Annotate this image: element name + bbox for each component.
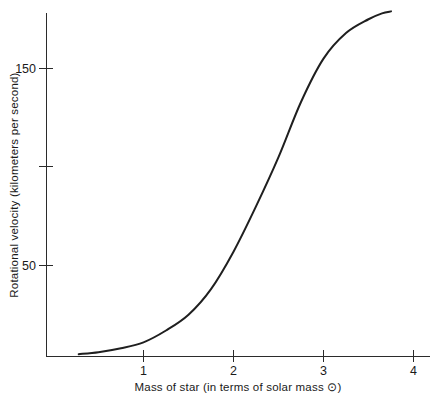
x-tick-label-2: 2: [230, 364, 237, 378]
chart-background: [0, 0, 444, 398]
x-axis-title: Mass of star (in terms of solar mass ⊙): [135, 381, 342, 393]
x-tick-label-4: 4: [410, 364, 417, 378]
x-tick-label-3: 3: [320, 364, 327, 378]
y-tick-label-50: 50: [22, 259, 36, 273]
x-tick-label-1: 1: [140, 364, 147, 378]
y-axis-title: Rotational velocity (kilometers per seco…: [8, 72, 20, 297]
chart-figure: 150 50 1 2 3 4 Rotational velocity (kilo…: [0, 0, 444, 398]
rotational-velocity-line-chart: 150 50 1 2 3 4 Rotational velocity (kilo…: [0, 0, 444, 398]
